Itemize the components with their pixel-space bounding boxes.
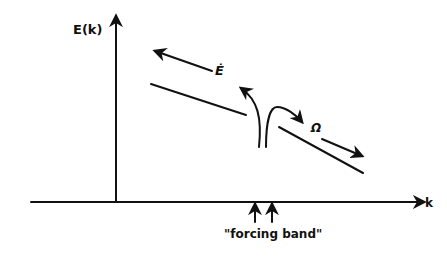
spectrum-segment-left (151, 84, 246, 115)
x-axis-label: k (425, 196, 433, 210)
y-axis-label: E(k) (73, 22, 102, 37)
energy-flux-arrow (155, 51, 212, 71)
enstrophy-flux-label: Ω (311, 121, 321, 135)
spectrum-diagram (0, 0, 447, 264)
inverse-cascade-curve (241, 88, 260, 147)
energy-flux-label: Ė (215, 63, 224, 78)
forcing-band-label: "forcing band" (224, 227, 322, 241)
direct-cascade-curve (266, 107, 302, 147)
